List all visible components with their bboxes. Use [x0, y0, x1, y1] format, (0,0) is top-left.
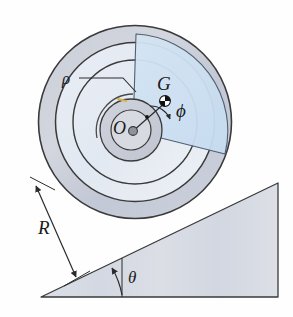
center-of-mass-marker [160, 96, 171, 107]
sector-reference-dot [145, 115, 149, 119]
label-outer-radius-R: R [38, 218, 50, 237]
dimension-tick-upper [30, 177, 55, 190]
label-rho: ρ [62, 70, 70, 87]
wheel-group [39, 26, 232, 219]
figure-root: ρ O G ϕ R θ [0, 0, 293, 317]
label-phi: ϕ [176, 101, 186, 120]
label-mass-center-G: G [157, 74, 171, 93]
label-theta: θ [128, 269, 136, 286]
wheel-incline-diagram [0, 0, 293, 317]
label-center-O: O [113, 119, 126, 137]
center-dot-O [129, 127, 138, 136]
